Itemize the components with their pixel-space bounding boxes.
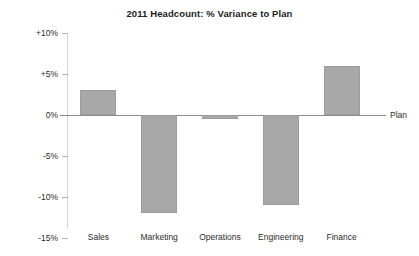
bar-engineering	[263, 115, 299, 205]
y-axis-tick-label: -15%	[2, 233, 58, 243]
y-axis-tick-mark	[62, 74, 68, 75]
x-axis-label-marketing: Marketing	[141, 232, 178, 242]
x-axis-label-sales: Sales	[88, 232, 109, 242]
plot-area	[68, 33, 372, 229]
chart-container: 2011 Headcount: % Variance to Plan +10%+…	[0, 0, 419, 256]
x-axis-category-labels: SalesMarketingOperationsEngineeringFinan…	[68, 232, 372, 250]
y-axis-tick-label: +10%	[2, 28, 58, 38]
bar-sales	[80, 90, 116, 115]
y-axis-tick-labels: +10%+5%0%-5%-10%-15%	[0, 0, 58, 256]
y-axis-tick-mark	[62, 238, 68, 239]
bar-finance	[324, 66, 360, 115]
chart-title: 2011 Headcount: % Variance to Plan	[0, 8, 419, 19]
y-axis-tick-mark	[62, 33, 68, 34]
bar-marketing	[141, 115, 177, 213]
y-axis-tick-mark	[62, 197, 68, 198]
x-axis-label-operations: Operations	[199, 232, 241, 242]
y-axis-tick-label: -10%	[2, 192, 58, 202]
plan-baseline-label: Plan	[390, 110, 407, 120]
x-axis-label-finance: Finance	[326, 232, 356, 242]
y-axis-tick-label: +5%	[2, 69, 58, 79]
x-axis-label-engineering: Engineering	[258, 232, 303, 242]
y-axis-tick-mark	[62, 156, 68, 157]
y-axis-tick-label: -5%	[2, 151, 58, 161]
bar-operations	[202, 115, 238, 119]
y-axis-tick-label: 0%	[2, 110, 58, 120]
